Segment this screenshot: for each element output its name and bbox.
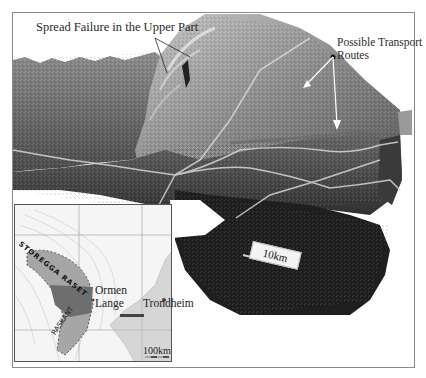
spread-failure-label: Spread Failure in the Upper Part [36,21,198,34]
inset-scale-label: 100km [143,345,171,357]
inset-location-map [14,204,172,362]
inset-ormen-label: Ormen [95,284,127,296]
inset-trondheim-label: Trondheim [143,297,194,309]
inset-lange-label: Lange [95,297,124,309]
inset-map-graphic [15,205,172,362]
transport-routes-label: Possible Transport Routes [337,36,426,62]
